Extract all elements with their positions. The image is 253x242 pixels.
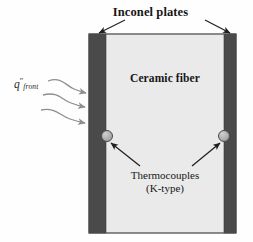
heat-flux-arrow-2: [43, 94, 85, 107]
heat-flux-arrow-1: [48, 80, 86, 93]
heat-flux-subscript: front: [23, 82, 38, 91]
inconel-plates-label: Inconel plates: [0, 6, 253, 19]
thermocouples-label: Thermocouples (K-type): [106, 170, 224, 194]
thermocouples-label-line1: Thermocouples: [131, 169, 199, 181]
inconel-left-leader-arrow: [99, 20, 125, 33]
thermocouples-label-line2: (K-type): [106, 183, 224, 195]
thermocouple-left-bead: [102, 131, 113, 142]
heat-flux-arrow-3: [41, 109, 85, 123]
heat-flux-label: q″front: [14, 77, 39, 91]
inconel-right-leader-arrow: [205, 20, 230, 33]
ceramic-fiber-label: Ceramic fiber: [106, 72, 224, 84]
diagram-canvas: [0, 0, 253, 242]
thermal-specimen-diagram: Inconel plates Ceramic fiber q″front The…: [0, 0, 253, 242]
thermocouple-right-bead: [219, 131, 230, 142]
